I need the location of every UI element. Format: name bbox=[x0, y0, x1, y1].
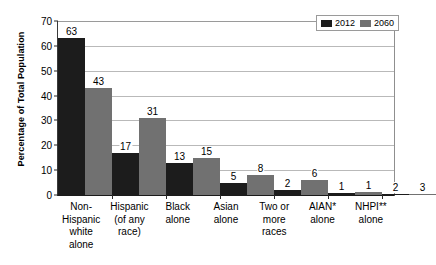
bar-2060: 43 bbox=[85, 88, 112, 195]
x-axis-label: NHPI**alone bbox=[347, 201, 395, 251]
x-axis-label-line: race) bbox=[105, 226, 153, 239]
bar-value-label: 6 bbox=[311, 168, 319, 179]
bar-group: 11 bbox=[328, 21, 382, 195]
x-axis-label: Two ormoreraces bbox=[250, 201, 298, 251]
x-tick-mark bbox=[328, 195, 329, 199]
legend-label: 2012 bbox=[335, 18, 355, 28]
bar-value-label: 13 bbox=[173, 151, 186, 162]
bar-group: 1315 bbox=[166, 21, 220, 195]
x-axis-label-line: Hispanic bbox=[57, 214, 105, 227]
bar-value-label: 8 bbox=[257, 163, 265, 174]
x-axis-label-line: alone bbox=[298, 214, 346, 227]
x-axis-labels: Non-HispanicwhitealoneHispanic(of anyrac… bbox=[57, 201, 395, 251]
bar-2012: 5 bbox=[220, 183, 247, 195]
bar-2012: 63 bbox=[58, 38, 85, 195]
legend-label: 2060 bbox=[374, 18, 394, 28]
bar-value-label: 1 bbox=[365, 180, 373, 191]
x-axis-label-line: races bbox=[250, 226, 298, 239]
bar-2012: 2 bbox=[382, 194, 409, 196]
bar-value-label: 17 bbox=[119, 141, 132, 152]
x-tick-mark bbox=[220, 195, 221, 199]
x-axis-label-line: Black bbox=[154, 201, 202, 214]
y-axis-title: Percentage of Total Population bbox=[16, 14, 26, 184]
x-axis-label-line: white bbox=[57, 226, 105, 239]
bar-2012: 2 bbox=[274, 190, 301, 195]
x-axis-label-line: Hispanic bbox=[105, 201, 153, 214]
x-axis-label-line: more bbox=[250, 214, 298, 227]
x-axis-label: Asianalone bbox=[202, 201, 250, 251]
legend-swatch-icon bbox=[321, 20, 332, 27]
legend-item-2060: 2060 bbox=[360, 18, 394, 28]
bar-value-label: 63 bbox=[65, 26, 78, 37]
x-tick-mark bbox=[382, 195, 383, 199]
bar-group: 6343 bbox=[58, 21, 112, 195]
x-tick-mark bbox=[274, 195, 275, 199]
bar-group: 26 bbox=[274, 21, 328, 195]
x-axis-label-line: alone bbox=[202, 214, 250, 227]
bar-2060: 1 bbox=[355, 192, 382, 195]
x-axis-label-line: Asian bbox=[202, 201, 250, 214]
bar-value-label: 5 bbox=[230, 171, 238, 182]
bar-2060: 3 bbox=[409, 194, 436, 196]
x-axis-label-line: AIAN* bbox=[298, 201, 346, 214]
x-axis-label-line: alone bbox=[57, 239, 105, 252]
legend-swatch-icon bbox=[360, 20, 371, 27]
bar-value-label: 15 bbox=[200, 146, 213, 157]
x-axis-label: Blackalone bbox=[154, 201, 202, 251]
bar-value-label: 2 bbox=[284, 178, 292, 189]
x-axis-label-line: alone bbox=[347, 214, 395, 227]
x-axis-label-line: Non- bbox=[57, 201, 105, 214]
x-axis-label: Non-Hispanicwhitealone bbox=[57, 201, 105, 251]
x-axis-label-line: (of any bbox=[105, 214, 153, 227]
legend: 2012 2060 bbox=[316, 15, 399, 31]
bar-value-label: 3 bbox=[419, 182, 427, 193]
legend-item-2012: 2012 bbox=[321, 18, 355, 28]
x-axis-label: Hispanic(of anyrace) bbox=[105, 201, 153, 251]
x-axis-label-line: alone bbox=[154, 214, 202, 227]
bar-group: 23 bbox=[382, 21, 436, 195]
x-tick-mark bbox=[112, 195, 113, 199]
x-tick-mark bbox=[166, 195, 167, 199]
bar-value-label: 43 bbox=[92, 76, 105, 87]
plot-area: 010203040506070 63431731131558261123 bbox=[57, 21, 395, 196]
bar-value-label: 2 bbox=[392, 182, 400, 193]
bar-2060: 6 bbox=[301, 180, 328, 195]
bar-value-label: 31 bbox=[146, 106, 159, 117]
bar-2060: 15 bbox=[193, 158, 220, 195]
bar-value-label: 1 bbox=[338, 181, 346, 192]
x-axis-label-line: Two or bbox=[250, 201, 298, 214]
bar-group: 58 bbox=[220, 21, 274, 195]
bar-2012: 17 bbox=[112, 153, 139, 195]
bar-2012: 1 bbox=[328, 193, 355, 195]
bar-2012: 13 bbox=[166, 163, 193, 195]
x-axis-label: AIAN*alone bbox=[298, 201, 346, 251]
bar-2060: 31 bbox=[139, 118, 166, 195]
bar-2060: 8 bbox=[247, 175, 274, 195]
x-axis-label-line: NHPI** bbox=[347, 201, 395, 214]
bar-groups: 63431731131558261123 bbox=[58, 21, 394, 195]
bar-group: 1731 bbox=[112, 21, 166, 195]
